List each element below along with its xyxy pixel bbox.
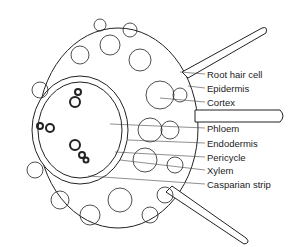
root-hair-bottom <box>166 186 248 244</box>
root-cross-section-diagram <box>0 0 299 247</box>
root-hair-middle <box>195 110 283 122</box>
label-xylem: Xylem <box>207 166 233 176</box>
label-casparian-strip: Casparian strip <box>207 180 271 190</box>
label-cortex: Cortex <box>207 98 235 108</box>
label-pericycle: Pericycle <box>207 153 246 163</box>
label-epidermis: Epidermis <box>207 84 249 94</box>
label-root-hair-cell: Root hair cell <box>207 70 262 80</box>
label-endodermis: Endodermis <box>207 139 258 149</box>
label-phloem: Phloem <box>207 124 239 134</box>
pericycle-ring <box>38 82 122 178</box>
